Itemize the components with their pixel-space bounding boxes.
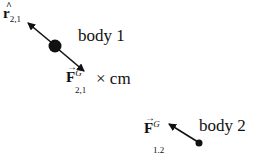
force-12-subscript: 1,2 (153, 146, 255, 153)
force-21-suffix: × cm (96, 70, 131, 87)
unit-vector-label: r2,1 ^ (3, 5, 21, 21)
hat-accent: ^ (6, 1, 12, 11)
body-1-label: body 1 (78, 27, 125, 44)
body-2-label: body 2 (199, 117, 246, 134)
body-1-circle (49, 40, 62, 53)
vector-accent: → (67, 62, 77, 72)
gravity-diagram: r2,1 ^ body 1 FG → 2,1 × cm FG → 1,2 bod… (0, 0, 255, 153)
force-12-arrow (169, 124, 198, 142)
unit-vector-arrow (28, 23, 52, 43)
force-12-label: FG → (144, 120, 160, 136)
unit-vector-subscript: 2,1 (10, 14, 21, 24)
force-21-label: FG → (66, 69, 82, 85)
vector-accent: → (145, 113, 155, 123)
